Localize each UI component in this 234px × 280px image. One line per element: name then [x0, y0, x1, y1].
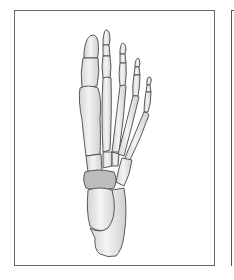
- second-toe-bones: [102, 30, 111, 152]
- foot-skeleton-illustration: [0, 0, 234, 280]
- navicular-bone: [84, 170, 116, 190]
- hallux-bones: [79, 35, 100, 156]
